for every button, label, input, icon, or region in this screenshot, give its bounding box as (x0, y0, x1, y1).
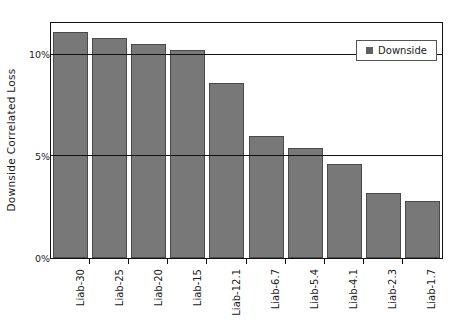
x-tick-label: Liab-25 (114, 269, 125, 306)
x-tick-mark (363, 259, 364, 264)
legend-swatch-downside (366, 47, 373, 54)
x-tick-label: Liab-6.7 (270, 269, 281, 309)
x-tick-label: Liab-20 (153, 269, 164, 306)
bar (92, 38, 127, 258)
x-tick-mark (89, 259, 90, 264)
x-tick-mark (324, 259, 325, 264)
y-tick-label: 10% (20, 49, 50, 60)
x-tick-label: Liab-30 (75, 269, 86, 306)
bar (288, 148, 323, 258)
x-tick-mark (167, 259, 168, 264)
bar (405, 201, 440, 258)
gridline-5% (51, 155, 442, 156)
x-tick-label: Liab-15 (192, 269, 203, 306)
bar (366, 193, 401, 258)
x-tick-mark (246, 259, 247, 264)
y-tick-label: 5% (20, 150, 50, 161)
bar (327, 164, 362, 258)
x-tick-mark (128, 259, 129, 264)
x-tick-mark (285, 259, 286, 264)
x-tick-label: Liab-12.1 (231, 269, 242, 316)
x-tick-label: Liab-5.4 (309, 269, 320, 309)
x-tick-label: Liab-4.1 (348, 269, 359, 309)
bar (53, 32, 88, 258)
y-tick-label: 0% (20, 252, 50, 263)
bar-chart-figure: Downside Correlated Loss 0%5%10% Liab-30… (0, 0, 459, 332)
x-axis-ticks: Liab-30Liab-25Liab-20Liab-15Liab-12.1Lia… (50, 259, 443, 332)
x-tick-label: Liab-1.7 (426, 269, 437, 309)
x-tick-label: Liab-2.3 (387, 269, 398, 309)
bar (209, 83, 244, 258)
bar (131, 44, 166, 258)
y-axis-ticks: 0%5%10% (12, 22, 50, 259)
bar (170, 50, 205, 258)
legend-label-downside: Downside (378, 45, 427, 56)
x-tick-mark (402, 259, 403, 264)
x-tick-mark (206, 259, 207, 264)
bar (249, 136, 284, 258)
chart-legend: Downside (356, 40, 437, 61)
